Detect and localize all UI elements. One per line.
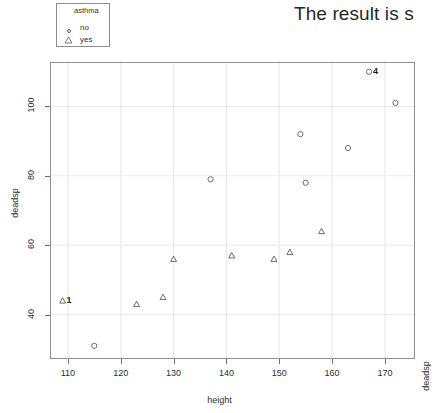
y-axis-tick-label: 80 — [26, 164, 36, 186]
x-axis-tick-label: 160 — [321, 368, 343, 378]
x-axis-tick-label: 120 — [110, 368, 132, 378]
data-point-yes — [160, 294, 166, 299]
y-axis-tick-mark — [45, 106, 50, 107]
x-axis-tick-label: 130 — [163, 368, 185, 378]
data-point-label: 4 — [373, 66, 378, 76]
y-axis-tick-label: 40 — [26, 303, 36, 325]
triangle-icon — [63, 31, 74, 49]
legend-entry-no: no — [63, 18, 89, 30]
data-point-no — [298, 132, 303, 137]
chart-legend: asthma no yes — [56, 3, 110, 47]
y-axis-tick-mark — [45, 315, 50, 316]
x-axis-tick-mark — [68, 359, 69, 364]
x-axis-tick-label: 110 — [57, 368, 79, 378]
x-axis-tick-mark — [226, 359, 227, 364]
data-point-yes — [287, 249, 293, 254]
data-point-yes — [319, 228, 325, 233]
legend-entry-yes: yes — [63, 30, 92, 42]
y-axis-tick-mark — [45, 245, 50, 246]
data-point-no — [393, 100, 398, 105]
data-point-no — [303, 180, 308, 185]
y-axis-tick-mark — [45, 176, 50, 177]
data-point-no — [92, 343, 97, 348]
data-point-yes — [271, 256, 277, 261]
x-axis-tick-mark — [174, 359, 175, 364]
plot-canvas — [51, 63, 414, 358]
x-axis-title: height — [0, 395, 439, 405]
data-point-no — [366, 69, 371, 74]
y-axis-tick-label: 60 — [26, 233, 36, 255]
data-point-no — [345, 145, 350, 150]
data-point-no — [208, 177, 213, 182]
scatter-plot-panel — [50, 62, 415, 359]
x-axis-tick-mark — [279, 359, 280, 364]
overlay-document-text: The result is s — [294, 2, 414, 26]
x-axis-tick-mark — [385, 359, 386, 364]
data-point-label: 1 — [67, 295, 72, 305]
data-point-yes — [134, 301, 140, 306]
x-axis-tick-mark — [121, 359, 122, 364]
x-axis-tick-label: 140 — [215, 368, 237, 378]
y-axis-title: deadsp — [10, 181, 20, 225]
y-axis-tick-label: 100 — [26, 94, 36, 116]
x-axis-tick-label: 170 — [374, 368, 396, 378]
data-point-yes — [229, 253, 235, 258]
x-axis-tick-label: 150 — [268, 368, 290, 378]
data-point-yes — [60, 298, 66, 303]
legend-entry-label: yes — [74, 35, 92, 44]
y-axis-title-right: deadsp — [421, 354, 431, 398]
legend-title: asthma — [74, 6, 99, 15]
x-axis-tick-mark — [332, 359, 333, 364]
